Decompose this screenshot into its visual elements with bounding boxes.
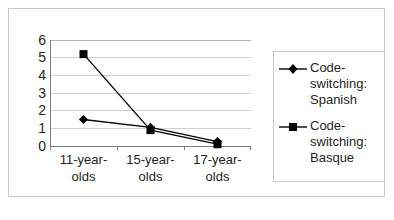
- plot-area: [50, 40, 251, 146]
- x-axis-label-0: 11-year-olds: [50, 151, 117, 185]
- chart-frame: 6 5 4 3 2 1 0 11-year-olds 15-year-olds …: [8, 8, 385, 197]
- legend-square-marker-icon: [278, 119, 308, 135]
- legend-item-basque: Code-switching: Basque: [278, 118, 382, 166]
- series-plot: [50, 40, 251, 146]
- x-tick-1: [117, 146, 118, 150]
- data-point-1-0: [80, 50, 88, 58]
- y-axis-tick-0: 0: [30, 139, 46, 153]
- x-axis-label-1: 15-year-olds: [117, 151, 184, 185]
- y-axis-tick-4: 4: [30, 68, 46, 82]
- legend-item-spanish: Code-switching: Spanish: [278, 60, 382, 108]
- x-tick-2: [184, 146, 185, 150]
- y-axis-tick-1: 1: [30, 121, 46, 135]
- x-axis-label-2: 17-year-olds: [184, 151, 251, 185]
- legend-label-spanish: Code-switching: Spanish: [310, 60, 382, 108]
- data-point-0-0: [79, 115, 88, 124]
- y-axis-labels: 6 5 4 3 2 1 0: [28, 40, 46, 146]
- legend-diamond-marker-icon: [278, 61, 308, 77]
- x-axis-labels: 11-year-olds 15-year-olds 17-year-olds: [50, 151, 251, 195]
- data-point-1-1: [147, 126, 155, 134]
- y-axis-tick-3: 3: [30, 86, 46, 100]
- x-tick-end: [250, 146, 251, 150]
- y-axis-tick-6: 6: [30, 33, 46, 47]
- data-point-1-2: [214, 140, 222, 148]
- y-axis-tick-5: 5: [30, 50, 46, 64]
- y-axis-tick-2: 2: [30, 103, 46, 117]
- chart-legend: Code-switching: Spanish Code-switching: …: [273, 51, 385, 182]
- legend-label-basque: Code-switching: Basque: [310, 118, 382, 166]
- x-tick-start: [50, 146, 51, 150]
